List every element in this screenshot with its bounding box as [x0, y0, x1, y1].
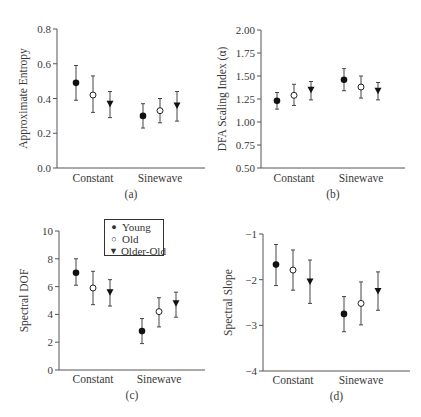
- x-category-label: Constant: [273, 374, 315, 386]
- down-triangle-marker-icon: [107, 289, 114, 296]
- filled-circle-marker-icon: [341, 311, 348, 318]
- data-point: [157, 99, 163, 123]
- x-category-label: Constant: [274, 172, 316, 184]
- legend-label: Older-Old: [121, 245, 166, 257]
- data-point: [341, 69, 348, 91]
- y-tick-label: 4: [48, 308, 54, 320]
- y-tick-label: −3: [245, 319, 257, 331]
- down-triangle-marker-icon: [107, 101, 114, 108]
- y-tick-label: 0.0: [37, 162, 51, 174]
- y-tick-label: 10: [42, 225, 54, 237]
- x-category-label: Constant: [73, 172, 115, 184]
- data-point: [73, 259, 80, 285]
- y-tick-label: 6: [48, 281, 54, 293]
- y-tick-label: 8: [48, 253, 54, 265]
- y-tick-label: 0: [48, 364, 54, 376]
- open-circle-marker-icon: [358, 300, 364, 306]
- y-tick-label: 0.2: [37, 127, 51, 139]
- y-tick-label: 2.00: [236, 24, 256, 36]
- filled-circle-marker-icon: [273, 261, 280, 268]
- y-tick-label: 1.50: [236, 70, 256, 82]
- down-triangle-marker-icon: [173, 300, 180, 307]
- data-point: [375, 82, 382, 99]
- y-axis-label: Spectral DOF: [18, 269, 31, 333]
- x-category-label: Sinewave: [339, 374, 384, 386]
- data-point: [156, 298, 162, 327]
- panel-label: (c): [126, 389, 139, 402]
- legend-item-older-old: ▼ Older-Old: [109, 245, 163, 257]
- x-category-label: Sinewave: [138, 172, 183, 184]
- data-point: [375, 272, 382, 310]
- open-circle-marker-icon: ○: [109, 233, 119, 245]
- data-point: [90, 76, 96, 112]
- legend-label: Old: [122, 233, 139, 245]
- y-tick-label: 1.25: [236, 93, 256, 105]
- open-circle-marker-icon: [90, 92, 96, 98]
- y-tick-label: 0.6: [37, 58, 51, 70]
- y-axis-label: DFA Scaling Index (α): [216, 47, 229, 152]
- data-point: [274, 93, 281, 110]
- x-category-label: Sinewave: [339, 172, 384, 184]
- down-triangle-marker-icon: ▼: [109, 245, 118, 257]
- down-triangle-marker-icon: [308, 87, 315, 94]
- data-point: [173, 292, 180, 317]
- open-circle-marker-icon: [358, 84, 364, 90]
- x-category-label: Sinewave: [137, 373, 182, 385]
- open-circle-marker-icon: [290, 267, 296, 273]
- open-circle-marker-icon: [157, 108, 163, 114]
- data-point: [358, 282, 364, 325]
- open-circle-marker-icon: [291, 92, 297, 98]
- chart-panel-a: 0.00.20.40.60.8Approximate EntropyConsta…: [0, 0, 210, 210]
- data-point: [290, 250, 296, 290]
- y-axis-label: Spectral Slope: [222, 269, 235, 336]
- chart-panel-d: −4−3−2−1Spectral SlopeConstantSinewave(d…: [210, 200, 421, 417]
- y-tick-label: 1.00: [236, 116, 256, 128]
- y-tick-label: 0.4: [37, 93, 51, 105]
- data-point: [107, 92, 114, 118]
- filled-circle-marker-icon: ●: [109, 221, 119, 233]
- y-tick-label: −4: [245, 365, 257, 377]
- filled-circle-marker-icon: [73, 80, 80, 87]
- open-circle-marker-icon: [156, 309, 162, 315]
- legend-item-old: ○ Old: [109, 233, 163, 245]
- legend-label: Young: [122, 221, 151, 233]
- legend-item-young: ● Young: [109, 221, 163, 233]
- down-triangle-marker-icon: [375, 88, 382, 95]
- data-point: [140, 104, 147, 128]
- y-tick-label: 1.75: [236, 47, 256, 59]
- data-point: [307, 260, 314, 303]
- down-triangle-marker-icon: [375, 288, 382, 295]
- open-circle-marker-icon: [90, 285, 96, 291]
- data-point: [291, 84, 297, 105]
- spectral-slope-chart: −4−3−2−1Spectral SlopeConstantSinewave(d…: [210, 200, 421, 417]
- filled-circle-marker-icon: [139, 328, 146, 335]
- data-point: [341, 297, 348, 332]
- filled-circle-marker-icon: [73, 269, 80, 276]
- filled-circle-marker-icon: [140, 113, 147, 120]
- panel-label: (d): [330, 390, 344, 403]
- data-point: [308, 82, 315, 100]
- data-point: [358, 76, 364, 98]
- down-triangle-marker-icon: [307, 278, 314, 285]
- data-point: [174, 92, 181, 122]
- y-tick-label: −2: [245, 274, 257, 286]
- x-category-label: Constant: [73, 373, 115, 385]
- y-tick-label: 0.75: [236, 139, 256, 151]
- filled-circle-marker-icon: [341, 76, 348, 83]
- y-tick-label: 0.8: [37, 23, 51, 35]
- data-point: [73, 65, 80, 100]
- filled-circle-marker-icon: [274, 98, 281, 105]
- down-triangle-marker-icon: [174, 102, 181, 109]
- approximate-entropy-chart: 0.00.20.40.60.8Approximate EntropyConsta…: [0, 0, 210, 210]
- data-point: [139, 319, 146, 344]
- dfa-scaling-index-chart: 0.500.751.001.251.501.752.00DFA Scaling …: [210, 0, 421, 210]
- y-tick-label: 0.50: [236, 162, 256, 174]
- data-point: [273, 245, 280, 286]
- y-tick-label: −1: [245, 228, 257, 240]
- data-point: [90, 271, 96, 304]
- data-point: [107, 280, 114, 306]
- chart-panel-b: 0.500.751.001.251.501.752.00DFA Scaling …: [210, 0, 421, 210]
- chart-legend: ● Young ○ Old ▼ Older-Old: [104, 219, 164, 256]
- y-tick-label: 2: [48, 336, 54, 348]
- y-axis-label: Approximate Entropy: [17, 48, 30, 149]
